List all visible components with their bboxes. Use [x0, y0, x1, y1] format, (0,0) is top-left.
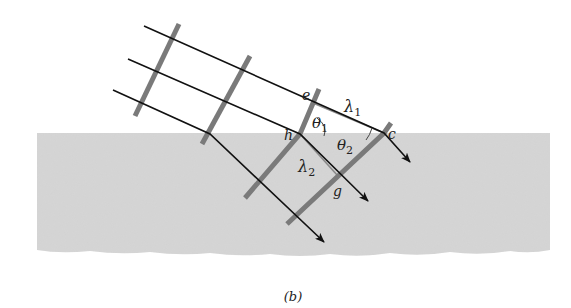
- figure-caption: (b): [284, 289, 302, 304]
- label-lambda1: λ1: [343, 97, 361, 119]
- label-theta1: θ1: [312, 114, 328, 135]
- label-g: g: [333, 183, 342, 199]
- label-h: h: [284, 127, 293, 143]
- medium-2-region: [37, 133, 550, 256]
- label-c: c: [388, 126, 396, 142]
- label-e: e: [302, 87, 310, 103]
- refraction-diagram: e h c g λ1 θ1 λ2 θ2 (b): [0, 0, 571, 308]
